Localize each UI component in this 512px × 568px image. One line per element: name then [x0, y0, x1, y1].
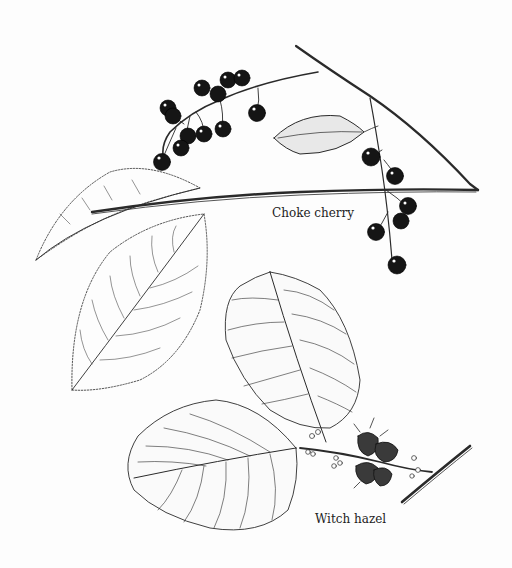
botanical-drawing	[0, 0, 512, 568]
botanical-plate: Choke cherry Witch hazel	[0, 0, 512, 568]
witch-hazel-specimen	[128, 272, 472, 530]
witch-hazel-label: Witch hazel	[315, 512, 386, 526]
choke-cherry-label: Choke cherry	[272, 206, 354, 220]
